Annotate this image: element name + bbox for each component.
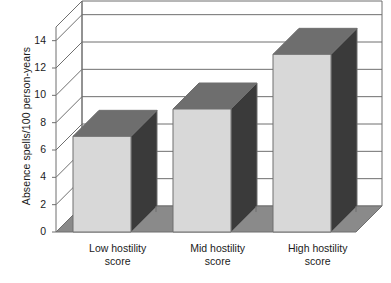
y-axis-tick-label: 14 <box>22 34 46 46</box>
gridline-depth <box>56 69 82 95</box>
wall-top-edge <box>56 1 82 27</box>
bar-front-face <box>173 109 231 232</box>
x-axis-category-label: High hostilityscore <box>264 242 372 267</box>
bar-column <box>273 28 357 232</box>
category-label-line2: score <box>264 255 372 268</box>
chart-plot-area <box>0 0 391 283</box>
x-axis-category-label: Mid hostilityscore <box>164 242 272 267</box>
y-axis-tick-label: 12 <box>22 61 46 73</box>
bar-column <box>73 110 157 232</box>
category-label-line2: score <box>164 255 272 268</box>
y-axis-tick-label: 10 <box>22 88 46 100</box>
category-label-line1: Mid hostility <box>164 242 272 255</box>
y-axis-tick-label: 4 <box>22 170 46 182</box>
bar-front-face <box>273 54 331 232</box>
category-label-line2: score <box>64 255 172 268</box>
x-axis-category-label: Low hostilityscore <box>64 242 172 267</box>
gridline-depth <box>56 42 82 68</box>
y-axis-tick-label: 2 <box>22 198 46 210</box>
bar-chart: Absence spells/100 person-years 02468101… <box>0 0 391 283</box>
y-axis-tick-label: 6 <box>22 143 46 155</box>
bar-front-face <box>73 136 131 232</box>
y-axis-tick-label: 0 <box>22 225 46 237</box>
bar-side-face <box>331 28 357 232</box>
category-label-line1: Low hostility <box>64 242 172 255</box>
gridline-depth <box>56 15 82 41</box>
category-label-line1: High hostility <box>264 242 372 255</box>
bar-column <box>173 83 257 232</box>
gridline-depth <box>56 97 82 123</box>
y-axis-tick-label: 8 <box>22 116 46 128</box>
